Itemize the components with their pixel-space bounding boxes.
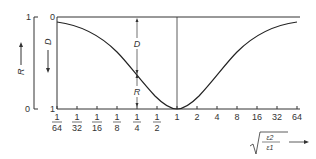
svg-text:8: 8 bbox=[114, 123, 119, 133]
r-axis-name: R bbox=[16, 68, 26, 75]
arrow-up-icon bbox=[19, 42, 23, 65]
svg-text:32: 32 bbox=[72, 123, 82, 133]
tick-label-4: 4 bbox=[214, 112, 219, 122]
x-axis-label: ε2 ε1 bbox=[250, 132, 309, 154]
tick-label-2: 2 bbox=[194, 112, 199, 122]
tick-label-1-2: 1 2 bbox=[153, 112, 161, 133]
tick-label-1-16: 1 16 bbox=[92, 112, 102, 133]
annotation-d-label: D bbox=[134, 39, 141, 49]
annotation-dr: D R bbox=[131, 18, 143, 107]
plot-frame bbox=[57, 17, 300, 109]
x-tick-labels-fractions: 1 64 1 32 1 16 1 8 1 4 1 2 bbox=[52, 112, 161, 133]
d-axis: 0 1 D bbox=[43, 12, 55, 114]
tick-label-64: 64 bbox=[292, 112, 302, 122]
tick-label-32: 32 bbox=[272, 112, 282, 122]
r-axis-bottom-label: 0 bbox=[25, 104, 30, 114]
annotation-r-label: R bbox=[134, 87, 141, 97]
arrow-right-icon bbox=[289, 140, 309, 144]
d-axis-top-label: 0 bbox=[50, 12, 55, 22]
svg-text:1: 1 bbox=[74, 112, 79, 122]
svg-text:1: 1 bbox=[94, 112, 99, 122]
svg-text:1: 1 bbox=[54, 112, 59, 122]
arrow-up-icon bbox=[136, 18, 139, 22]
tick-label-1-8: 1 8 bbox=[113, 112, 121, 133]
chart-figure: 1 0 R 0 1 D bbox=[0, 0, 316, 159]
svg-text:1: 1 bbox=[154, 112, 159, 122]
svg-text:1: 1 bbox=[134, 112, 139, 122]
tick-label-1-32: 1 32 bbox=[72, 112, 82, 133]
tick-label-1-64: 1 64 bbox=[52, 112, 62, 133]
arrow-down-icon bbox=[136, 103, 139, 107]
tick-label-16: 16 bbox=[252, 112, 262, 122]
tick-label-1-4: 1 4 bbox=[133, 112, 141, 133]
r-axis-top-label: 1 bbox=[26, 12, 31, 22]
tick-label-8: 8 bbox=[234, 112, 239, 122]
svg-text:4: 4 bbox=[134, 123, 139, 133]
svg-text:2: 2 bbox=[154, 123, 159, 133]
x-tick-labels-integers: 1 2 4 8 16 32 64 bbox=[174, 112, 302, 122]
d-axis-name: D bbox=[43, 38, 53, 45]
svg-text:1: 1 bbox=[114, 112, 119, 122]
arrow-down-icon bbox=[46, 50, 50, 73]
r-axis: 1 0 R bbox=[16, 12, 38, 114]
svg-text:64: 64 bbox=[52, 123, 62, 133]
x-label-denominator: ε1 bbox=[267, 144, 274, 151]
x-label-numerator: ε2 bbox=[267, 134, 274, 141]
svg-text:16: 16 bbox=[92, 123, 102, 133]
tick-label-1: 1 bbox=[174, 112, 179, 122]
